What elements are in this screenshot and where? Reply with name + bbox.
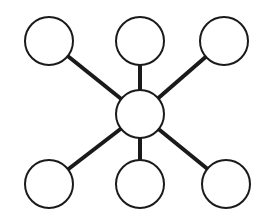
star-network-diagram — [0, 0, 269, 224]
node-top-center — [116, 17, 164, 65]
diagram-canvas — [0, 0, 269, 224]
node-top-left — [25, 17, 73, 65]
hub-node — [116, 90, 164, 138]
node-bottom-center — [116, 160, 164, 208]
node-bottom-right — [202, 160, 250, 208]
nodes-group — [25, 17, 250, 208]
node-bottom-left — [25, 160, 73, 208]
node-top-right — [200, 17, 248, 65]
